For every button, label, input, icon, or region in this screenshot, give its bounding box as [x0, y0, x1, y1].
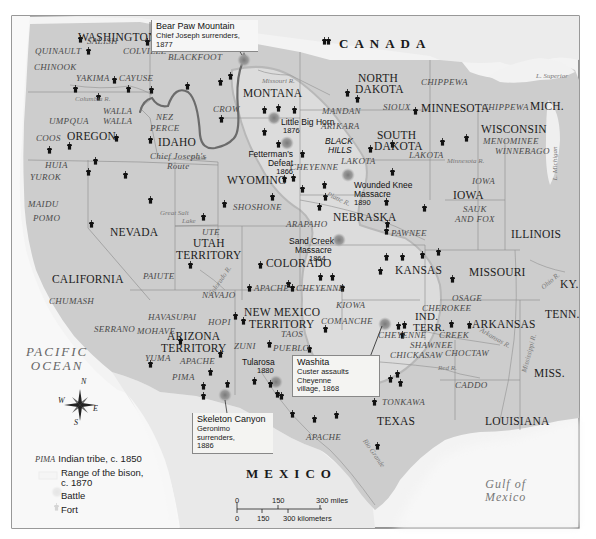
river-label: Lake: [182, 218, 196, 225]
tribe-label: WALLA: [103, 117, 132, 126]
scale-miles-0: 0: [235, 497, 239, 505]
state-label: MISS.: [534, 368, 565, 380]
tribe-label: QUINAULT: [35, 47, 81, 56]
callout-detail-line1: Geronimo surrenders,: [197, 425, 269, 442]
river-label: L. Superior: [536, 73, 568, 80]
tribe-label: BLACKFOOT: [168, 53, 222, 62]
tribe-label: CREEK: [439, 331, 469, 340]
country-label-canada: CANADA: [339, 37, 431, 50]
scale-km-150: 150: [257, 515, 270, 523]
tribe-label: WINNEBAGO: [495, 147, 550, 156]
river-label: Minnesota R.: [447, 158, 484, 165]
state-label: KANSAS: [395, 265, 442, 277]
tribe-label: CHEYENNE: [296, 284, 344, 293]
tribe-label: OSAGE: [452, 294, 482, 303]
state-label: DAKOTA: [355, 84, 404, 96]
gulf-line-2: Mexico: [485, 490, 526, 504]
state-label: LOUISIANA: [485, 416, 549, 428]
tribe-label: CHUMASH: [49, 297, 94, 306]
state-label: TERRITORY: [176, 250, 241, 262]
tribe-label: SERRANO: [94, 325, 135, 334]
tribe-label: COMANCHE: [321, 317, 373, 326]
battle-year: 1890: [354, 199, 412, 207]
route-line-2: Route: [167, 161, 190, 171]
compass-w: W: [58, 397, 65, 405]
tribe-label: HUIA: [45, 161, 68, 170]
tribe-label: MANDAN: [322, 107, 361, 116]
tribe-label: SHOSHONE: [233, 203, 282, 212]
state-label: CALIFORNIA: [52, 274, 124, 286]
callout-detail-line2: village, 1868: [297, 385, 375, 394]
tribe-label: MOHAVE: [137, 327, 175, 336]
callout-washita: Washita Custer assaults Cheyenne village…: [292, 355, 380, 397]
tribe-label: KIOWA: [336, 301, 365, 310]
state-label: MICH.: [530, 101, 564, 113]
tribe-label: PAWNEE: [391, 229, 427, 238]
state-label: IDAHO: [158, 137, 196, 149]
tribe-label: CHICKASAW: [390, 351, 443, 360]
route-line-1: Chief Joseph's: [150, 151, 206, 161]
legend-tribe-label: Indian tribe, c. 1850: [58, 453, 141, 464]
tribe-label: PERCE: [150, 124, 180, 133]
river-label: Great Salt: [160, 210, 189, 217]
tribe-label: YAKIMA: [76, 74, 110, 83]
state-label: NEBRASKA: [333, 212, 397, 224]
tribe-label: YUROK: [30, 173, 61, 182]
legend-fort-label: Fort: [61, 504, 78, 515]
compass-e: E: [93, 405, 98, 413]
battle-label-wounded-knee: Wounded Knee Massacre 1890: [354, 181, 412, 207]
tribe-label: CHIPPEWA: [482, 103, 529, 112]
battle-year: 1864: [289, 255, 334, 263]
tribe-label: SALISH: [87, 37, 118, 46]
tribe-label: SIOUX: [383, 103, 411, 112]
battle-label-little-big-horn: Little Big Horn 1876: [281, 118, 334, 135]
tribe-label: TONKAWA: [382, 398, 425, 407]
tribe-label: LAKOTA: [341, 157, 376, 166]
legend-tribe-sample: PIMA: [35, 454, 55, 464]
map-legend: PIMA Indian tribe, c. 1850 Range of the …: [17, 451, 147, 525]
battle-label-fetterman: Fetterman's Defeat 1866: [245, 150, 293, 176]
compass-s: S: [74, 419, 78, 427]
gulf-of-mexico-label: Gulf of Mexico: [485, 478, 526, 503]
river-label: Red R.: [438, 365, 457, 372]
tribe-label: WALLA: [103, 107, 132, 116]
tribe-label: NEZ: [156, 113, 173, 122]
river-label: Missouri R.: [262, 78, 295, 85]
state-label: KY.: [560, 279, 579, 291]
tribe-label: CAYUSE: [119, 74, 153, 83]
tribe-label: MAIDU: [28, 200, 59, 209]
compass-n: N: [81, 378, 86, 386]
tribe-label: CADDO: [455, 381, 488, 390]
callout-detail: Chief Joseph surrenders, 1877: [156, 32, 254, 49]
pacific-ocean-label: PACIFIC OCEAN: [26, 345, 88, 372]
state-label: NEVADA: [110, 227, 158, 239]
scale-km-0: 0: [235, 515, 239, 523]
tribe-label: AND FOX: [455, 215, 495, 224]
tribe-label: CHEROKEE: [422, 304, 471, 313]
state-label: MISSOURI: [469, 267, 526, 279]
battle-year: 1880: [242, 367, 275, 375]
state-label: TENN.: [545, 309, 580, 321]
tribe-label: APACHE: [254, 284, 289, 293]
state-label: ILLINOIS: [511, 229, 561, 241]
legend-row-battle: Battle: [61, 490, 85, 501]
tribe-label: PIMA: [172, 373, 195, 382]
callout-detail-line1: Custer assaults Cheyenne: [297, 368, 375, 385]
country-label-mexico: MEXICO: [246, 467, 337, 480]
state-label: WISCONSIN: [481, 124, 547, 136]
tribe-label: ARAPAHO: [286, 220, 327, 229]
tribe-label: COOS: [36, 134, 61, 143]
river-label: L. Michigan: [552, 146, 559, 180]
state-label: MONTANA: [243, 88, 302, 100]
tribe-label: UTE: [202, 228, 220, 237]
legend-bison-label-line2: c. 1870: [61, 478, 92, 488]
battle-label-sand-creek: Sand Creek Massacre 1864: [289, 237, 334, 263]
tribe-label: PUEBLO: [273, 344, 309, 353]
state-label: UTAH: [193, 238, 225, 250]
legend-row-fort: Fort: [61, 504, 78, 515]
tribe-label: ZUNI: [234, 342, 256, 351]
scale-km-300: 300 kilometers: [283, 515, 332, 523]
tribe-label: SAUK: [463, 205, 487, 214]
callout-skeleton-canyon: Skeleton Canyon Geronimo surrenders, 188…: [192, 413, 273, 454]
tribe-label: POMO: [33, 214, 60, 223]
